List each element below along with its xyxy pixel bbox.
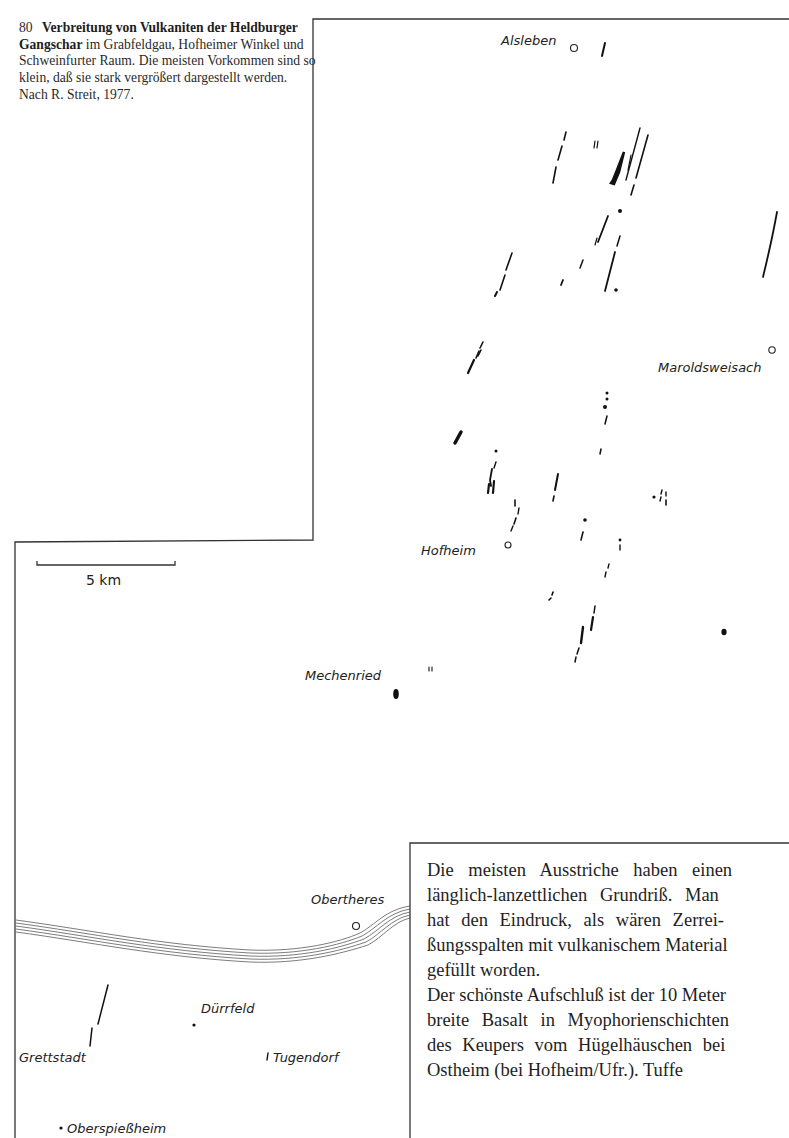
place-oberspiessheim: Oberspießheim	[67, 1121, 166, 1136]
settlement-markers	[353, 45, 776, 930]
place-maroldsweisach: Maroldsweisach	[658, 360, 762, 375]
place-duerrfeld: Dürrfeld	[201, 1001, 255, 1016]
maroldsweisach-marker	[769, 347, 775, 353]
scale-bar	[37, 561, 175, 565]
place-hofheim: Hofheim	[421, 543, 476, 558]
river-main	[16, 906, 410, 962]
body-text-line: breite Basalt in Myophorienschichten	[427, 1008, 789, 1033]
hofheim-marker	[505, 542, 511, 548]
body-text-line: ßungsspalten mit vulkanischem Material	[427, 933, 789, 958]
place-grettstadt: Grettstadt	[19, 1050, 87, 1065]
place-obertheres: Obertheres	[311, 892, 385, 907]
place-tugendorf: Tugendorf	[273, 1050, 341, 1065]
body-text: Die meisten Ausstriche haben einen längl…	[427, 858, 789, 1083]
body-text-line: länglich-lanzettlichen Grundriß. Man	[427, 883, 789, 908]
place-alsleben: Alsleben	[500, 33, 556, 48]
body-text-line: Ostheim (bei Hofheim/Ufr.). Tuffe	[427, 1058, 789, 1083]
place-mechenried: Mechenried	[305, 668, 382, 683]
alsleben-marker	[571, 45, 578, 52]
scale-bar-label: 5 km	[86, 572, 121, 588]
body-text-line: des Keupers vom Hügelhäuschen bei	[427, 1033, 789, 1058]
body-text-line: hat den Eindruck, als wären Zerrei-	[427, 908, 789, 933]
body-text-line: Der schönste Aufschluß ist der 10 Meter	[427, 983, 789, 1008]
obertheres-marker	[353, 923, 360, 930]
body-text-line: Die meisten Ausstriche haben einen	[427, 858, 789, 883]
body-text-line: gefüllt worden.	[427, 958, 789, 983]
